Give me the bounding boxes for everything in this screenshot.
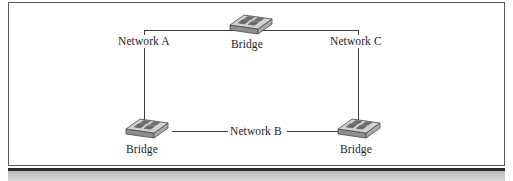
bridge-right-label: Bridge	[340, 143, 372, 156]
bridge-device-icon	[124, 116, 170, 140]
network-a-label: Network A	[116, 35, 172, 48]
bridge-top-label: Bridge	[231, 38, 263, 51]
page-bottom-band	[8, 171, 505, 181]
link-network-b-to-bridge-right	[287, 131, 343, 132]
network-b-label: Network B	[228, 125, 284, 138]
network-c-label: Network C	[328, 35, 384, 48]
bridge-device-icon	[336, 116, 382, 140]
figure-root: Network A Network C Network B Bridge Bri…	[0, 0, 513, 181]
bridge-device-icon	[228, 12, 274, 36]
bridge-left-label: Bridge	[126, 143, 158, 156]
link-bridge-left-to-network-b	[172, 131, 228, 132]
